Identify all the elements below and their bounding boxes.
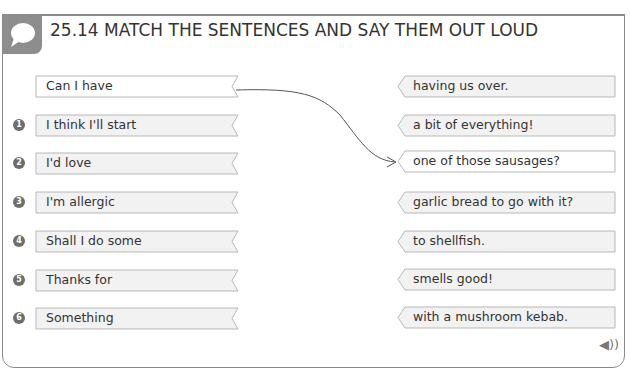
right-ribbon-text: a bit of everything!: [397, 117, 533, 132]
left-ribbon-5[interactable]: Thanks for: [35, 269, 239, 292]
left-ribbon-3[interactable]: I'm allergic: [35, 191, 239, 214]
right-ribbon-6[interactable]: smells good!: [397, 268, 616, 291]
example-left-text: Can I have: [35, 78, 113, 93]
left-ribbon-2[interactable]: I'd love: [35, 152, 239, 175]
right-ribbon-text: one of those sausages?: [397, 153, 560, 168]
right-ribbon-text: with a mushroom kebab.: [397, 309, 568, 324]
left-ribbon-6[interactable]: Something: [35, 307, 239, 330]
right-ribbon-7[interactable]: with a mushroom kebab.: [397, 306, 616, 329]
number-badge-2: 2: [13, 157, 25, 169]
number-badge-6: 6: [13, 312, 25, 324]
speaker-icon[interactable]: ◀)): [599, 337, 619, 352]
number-badge-1: 1: [13, 119, 25, 131]
left-ribbon-text: Thanks for: [35, 272, 112, 287]
right-ribbon-1[interactable]: having us over.: [397, 75, 616, 98]
right-ribbon-2[interactable]: a bit of everything!: [397, 114, 616, 137]
right-ribbon-text: smells good!: [397, 271, 493, 286]
right-ribbon-4[interactable]: garlic bread to go with it?: [397, 191, 616, 214]
right-ribbon-text: to shellfish.: [397, 233, 485, 248]
left-ribbon-text: Shall I do some: [35, 233, 142, 248]
left-ribbon-4[interactable]: Shall I do some: [35, 230, 239, 253]
example-left-ribbon[interactable]: Can I have: [35, 75, 239, 98]
left-ribbon-text: I'd love: [35, 155, 91, 170]
number-badge-5: 5: [13, 274, 25, 286]
left-ribbon-text: Something: [35, 310, 114, 325]
number-badge-3: 3: [13, 196, 25, 208]
left-ribbon-text: I'm allergic: [35, 194, 115, 209]
right-ribbon-5[interactable]: to shellfish.: [397, 230, 616, 253]
left-ribbon-text: I think I'll start: [35, 117, 136, 132]
left-ribbon-1[interactable]: I think I'll start: [35, 114, 239, 137]
right-ribbon-text: having us over.: [397, 78, 508, 93]
right-ribbon-3-example[interactable]: one of those sausages?: [397, 150, 616, 173]
right-ribbon-text: garlic bread to go with it?: [397, 194, 573, 209]
number-badge-4: 4: [13, 235, 25, 247]
